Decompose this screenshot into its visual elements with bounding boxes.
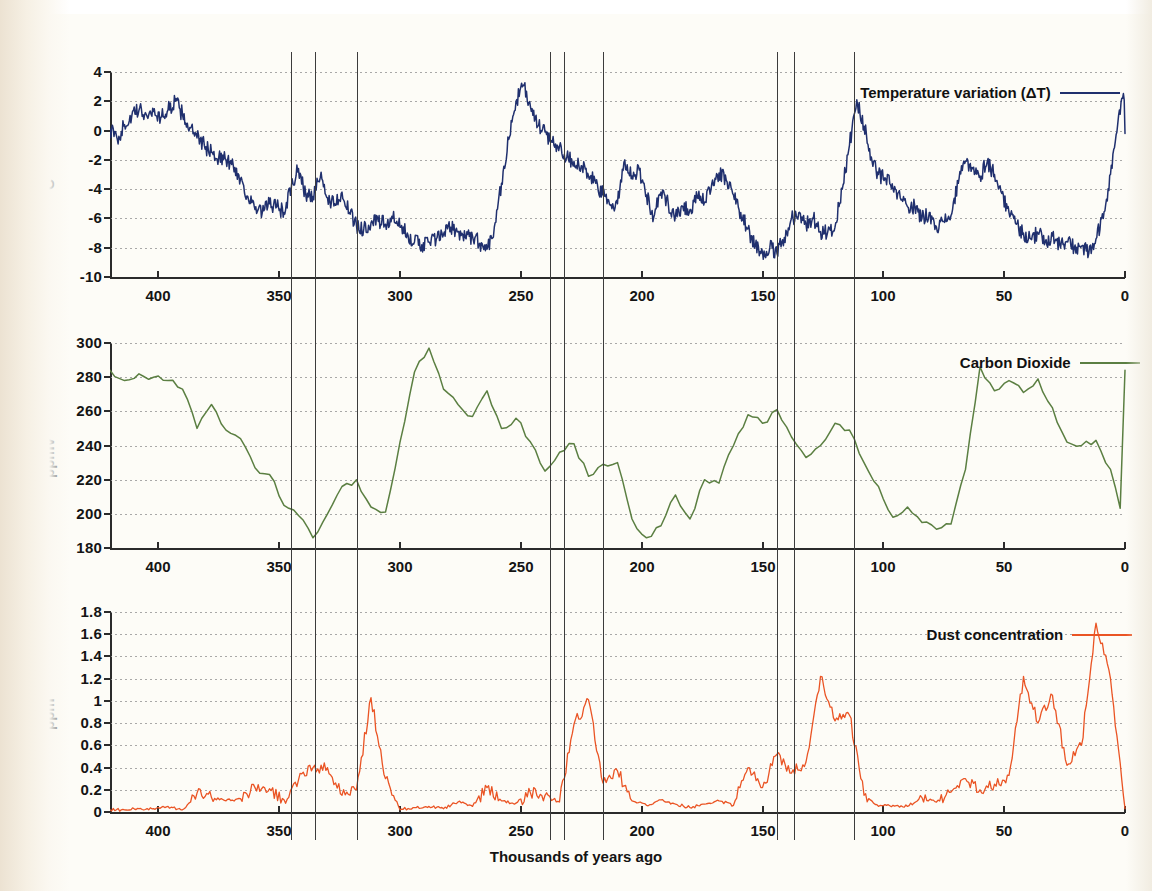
reference-line xyxy=(794,52,795,840)
dust_concentration-x-tick-label: 0 xyxy=(1085,822,1152,839)
carbon-dioxide-legend-label: Carbon Dioxide xyxy=(960,354,1071,371)
reference-line xyxy=(550,52,551,840)
dust_concentration-y-tick-label: 1.2 xyxy=(40,670,102,687)
dust-concentration-legend-label: Dust concentration xyxy=(927,626,1064,643)
reference-line xyxy=(564,52,565,840)
dust_concentration-y-tick-label: 1.8 xyxy=(40,603,102,620)
temperature-legend-swatch xyxy=(1060,92,1120,94)
dust_concentration-y-tick-label: 0.4 xyxy=(40,759,102,776)
dust-concentration-y-axis-title: ppm xyxy=(40,698,57,730)
dust_concentration-x-tick-label: 100 xyxy=(843,822,923,839)
carbon-dioxide-legend-swatch xyxy=(1080,362,1140,364)
dust_concentration-y-tick-label: 1.6 xyxy=(40,625,102,642)
dust_concentration-x-tick-label: 50 xyxy=(964,822,1044,839)
page-top-crop-edge xyxy=(0,0,1152,14)
dust_concentration-x-tick-label: 300 xyxy=(360,822,440,839)
dust_concentration-x-tick-label: 150 xyxy=(723,822,803,839)
dust-concentration-plot-area: 1.81.61.41.210.80.60.40.2040035030025020… xyxy=(0,0,1152,852)
temperature-legend[interactable]: Temperature variation (ΔT) xyxy=(860,84,1120,101)
reference-line xyxy=(854,52,855,840)
reference-line xyxy=(357,52,358,840)
dust_concentration-x-tick-label: 200 xyxy=(602,822,682,839)
dust_concentration-y-tick-label: 0.6 xyxy=(40,736,102,753)
dust_concentration-y-tick-label: 1.4 xyxy=(40,647,102,664)
dust_concentration-x-tick-label: 350 xyxy=(239,822,319,839)
reference-line xyxy=(291,52,292,840)
reference-line xyxy=(315,52,316,840)
dust_concentration-y-tick-label: 0 xyxy=(40,803,102,820)
dust-concentration-legend-swatch xyxy=(1072,634,1132,636)
dust_concentration-x-tick-label: 250 xyxy=(481,822,561,839)
dust-concentration-legend[interactable]: Dust concentration xyxy=(927,626,1133,643)
x-axis-caption: Thousands of years ago xyxy=(0,848,1152,865)
dust_concentration-y-tick-label: 0.2 xyxy=(40,781,102,798)
carbon-dioxide-legend[interactable]: Carbon Dioxide xyxy=(960,354,1140,371)
reference-line xyxy=(603,52,604,840)
reference-line xyxy=(777,52,778,840)
temperature-legend-label: Temperature variation (ΔT) xyxy=(860,84,1051,101)
dust_concentration-x-tick-label: 400 xyxy=(118,822,198,839)
